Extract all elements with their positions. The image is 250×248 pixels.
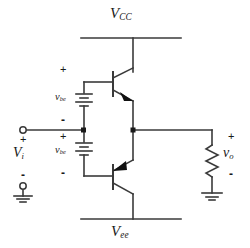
circuit-diagram: VCC Vee + Vi - + vo - + vbe - + vbe - — [0, 0, 250, 248]
output-source-label-sub: o — [229, 151, 234, 161]
vcc-label: VCC — [110, 6, 132, 22]
load-resistor — [206, 145, 218, 177]
upper-bias-minus-sign: - — [61, 114, 65, 126]
upper-bias-label: vbe — [55, 92, 66, 103]
lower-bias-minus-sign: - — [61, 167, 65, 179]
pnp-collector-slant — [113, 183, 133, 194]
input-source-label-main: V — [13, 145, 22, 160]
input-node-dot — [81, 128, 86, 133]
lower-bias-plus-sign: + — [60, 131, 66, 142]
upper-bias-label-sub: be — [60, 95, 67, 102]
lower-bias-label: vbe — [55, 145, 66, 156]
pnp-emitter-arrow-icon — [113, 161, 127, 171]
input-minus-sign: - — [21, 169, 25, 181]
schematic-drawing — [0, 0, 250, 248]
vee-label-sub: ee — [120, 230, 129, 240]
lower-bias-label-sub: be — [60, 148, 67, 155]
vee-label-main: V — [111, 223, 120, 239]
input-plus-sign: + — [20, 134, 26, 145]
upper-bias-plus-sign: + — [60, 64, 66, 75]
input-source-label-sub: i — [22, 151, 25, 161]
output-minus-sign: - — [229, 168, 233, 180]
vee-label: Vee — [111, 224, 129, 240]
npn-collector-slant — [113, 68, 133, 78]
input-source-label: Vi — [13, 146, 24, 161]
output-plus-sign: + — [228, 131, 234, 142]
output-node-dot — [131, 128, 136, 133]
vcc-label-sub: CC — [119, 12, 132, 22]
input-terminal-bottom-icon[interactable] — [20, 183, 26, 189]
output-source-label: vo — [223, 146, 234, 161]
vcc-label-main: V — [110, 5, 119, 21]
